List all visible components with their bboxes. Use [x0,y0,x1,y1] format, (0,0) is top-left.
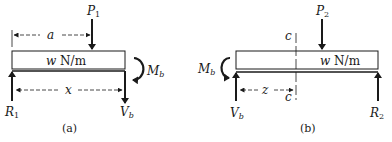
svg-text:c: c [285,90,292,104]
shear-Vb-label: Vb [230,106,244,121]
svg-text:c: c [285,29,292,43]
moment-Mb-label: Mb [197,62,215,77]
shear-Vb-arrow: Vb [230,73,244,121]
caption-b: (b) [300,122,316,135]
moment-Mb-arrow: Mb [197,58,230,78]
section-c-line: c c [285,29,296,104]
force-P2-arrow: P2 [315,4,329,49]
distributed-load-label: w N/m [320,54,361,68]
force-P1-arrow: P1 [86,4,100,49]
distributed-load-label: w N/m [46,54,87,68]
beam-free-body-diagrams: w N/m a P1 R1 Vb x [0,0,392,142]
dimension-x: x [16,83,122,97]
reaction-R1-label: R1 [4,105,19,120]
reaction-R1-arrow: R1 [4,72,19,120]
dimension-a: a [12,28,90,47]
reaction-R2-label: R2 [369,106,384,121]
svg-text:z: z [261,83,269,97]
force-P2-label: P2 [315,4,329,19]
moment-Mb-arrow: Mb [133,58,164,80]
svg-text:a: a [47,28,54,42]
figure-b: w N/m c c P2 Vb R2 z [197,4,384,135]
svg-text:x: x [65,83,72,97]
figure-a: w N/m a P1 R1 Vb x [4,4,164,135]
caption-a: (a) [62,122,77,135]
reaction-R2-arrow: R2 [369,73,384,121]
moment-Mb-label: Mb [146,64,164,79]
force-P1-label: P1 [86,4,100,19]
shear-Vb-label: Vb [120,105,134,120]
shear-Vb-arrow: Vb [120,71,134,120]
